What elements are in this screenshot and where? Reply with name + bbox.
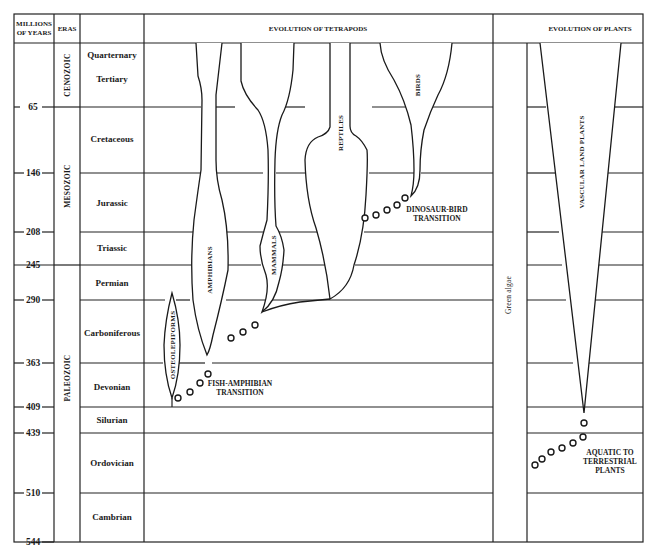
label-osteolepiforms: OSTEOLEPIFORMS [169, 311, 177, 380]
tick-363: 363 [26, 358, 41, 368]
period-silurian: Silurian [96, 415, 127, 425]
reptiles-branch [305, 43, 367, 299]
period-cretaceous: Cretaceous [91, 134, 134, 144]
header-years-line1: MILLIONS [16, 20, 52, 28]
label-birds: BIRDS [414, 74, 422, 96]
table-header: MILLIONS OF YEARS ERAS EVOLUTION OF TETR… [16, 20, 632, 37]
tick-510: 510 [26, 488, 41, 498]
tick-544: 544 [26, 537, 41, 547]
fish-amphibian-line1: FISH-AMPHIBIAN [208, 379, 273, 388]
tick-146: 146 [26, 168, 41, 178]
period-permian: Permian [96, 278, 129, 288]
era-paleozoic: PALEOZOIC [63, 354, 72, 401]
aquatic-terrestrial-dots [532, 420, 587, 468]
tick-208: 208 [26, 227, 41, 237]
period-quarternary: Quarternary [87, 50, 137, 60]
dinosaur-bird-transition-dots [362, 195, 408, 221]
header-years-line2: OF YEARS [17, 29, 52, 37]
period-jurassic: Jurassic [96, 198, 128, 208]
label-reptiles: REPTILES [337, 115, 345, 151]
plants-tree: Green algae VASCULAR LAND PLANTS AQUATIC… [504, 43, 637, 475]
period-labels: Quarternary Tertiary Cretaceous Jurassic… [84, 50, 140, 522]
tick-290: 290 [26, 295, 41, 305]
amniote-transition-dots [228, 322, 258, 341]
fish-amphibian-transition-dots [175, 371, 211, 401]
header-eras: ERAS [58, 25, 77, 33]
header-tetrapods: EVOLUTION OF TETRAPODS [269, 25, 367, 33]
period-cambrian: Cambrian [92, 512, 132, 522]
tick-439: 439 [26, 428, 41, 438]
evolution-timescale-diagram: MILLIONS OF YEARS ERAS EVOLUTION OF TETR… [0, 0, 658, 556]
aquatic-line3: PLANTS [595, 466, 625, 475]
tick-65: 65 [28, 102, 38, 112]
era-mesozoic: MESOZOIC [63, 164, 72, 208]
period-devonian: Devonian [94, 382, 131, 392]
mammals-branch [241, 43, 294, 312]
dinosaur-bird-line2: TRANSITION [413, 214, 461, 223]
tick-245: 245 [26, 260, 41, 270]
label-amphibians: AMPHIBIANS [206, 246, 214, 294]
era-cenozoic: CENOZOIC [63, 53, 72, 96]
aquatic-line2: TERRESTRIAL [583, 457, 637, 466]
period-ordovician: Ordovician [90, 458, 134, 468]
time-tick-labels: 65 146 208 245 290 363 409 439 510 544 [26, 102, 41, 547]
label-vascular-plants: VASCULAR LAND PLANTS [578, 116, 586, 209]
vascular-plants-wedge [540, 43, 621, 413]
aquatic-line1: AQUATIC TO [586, 448, 633, 457]
era-labels: CENOZOIC MESOZOIC PALEOZOIC [63, 53, 72, 401]
amphibians-branch [192, 43, 228, 355]
label-mammals: MAMMALS [270, 235, 278, 275]
tick-409: 409 [26, 402, 41, 412]
period-carboniferous: Carboniferous [84, 328, 140, 338]
label-green-algae: Green algae [504, 275, 513, 314]
tetrapod-tree: OSTEOLEPIFORMS AMPHIBIANS MAMMALS REPTIL… [164, 43, 468, 407]
header-plants: EVOLUTION OF PLANTS [548, 25, 631, 33]
fish-amphibian-line2: TRANSITION [216, 388, 264, 397]
period-triassic: Triassic [97, 243, 127, 253]
dinosaur-bird-line1: DINOSAUR-BIRD [406, 205, 468, 214]
period-tertiary: Tertiary [96, 74, 128, 84]
